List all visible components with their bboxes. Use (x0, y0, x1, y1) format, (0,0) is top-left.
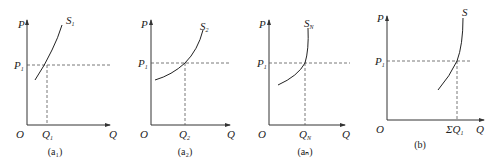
price-label: P1 (137, 57, 148, 70)
x-axis-label: Q (227, 128, 235, 140)
price-label: P1 (13, 59, 24, 72)
curve-label: S2 (200, 20, 209, 33)
origin-label: O (258, 128, 266, 140)
y-axis-label: P (376, 12, 384, 24)
panel-a1: P Q O P1 Q1 S1 (a₁) (13, 14, 117, 158)
supply-curve (438, 18, 463, 90)
panel-aN: P Q O P1 QN SN (aₙ) (256, 17, 350, 158)
x-axis-label: Q (476, 123, 484, 135)
panel-a2: P Q O P1 Q2 S2 (a₂) (137, 18, 235, 158)
price-label: P1 (374, 55, 385, 68)
y-axis-label: P (258, 18, 266, 30)
panel-caption: (a₁) (48, 146, 63, 158)
y-axis-label: P (140, 18, 148, 30)
curve-label: S1 (66, 14, 75, 27)
curve-label: SN (304, 17, 315, 30)
x-axis-label: Q (109, 128, 117, 140)
supply-curves-diagram: P Q O P1 Q1 S1 (a₁) P Q O P1 Q2 S2 (a₂) … (0, 0, 496, 163)
price-label: P1 (256, 57, 267, 70)
origin-label: O (16, 128, 24, 140)
panel-b: P Q O P1 ΣQ1 S (b) (374, 6, 484, 151)
supply-curve (155, 30, 203, 80)
x-axis-label: Q (342, 128, 350, 140)
quantity-label: QN (299, 128, 312, 141)
supply-curve (35, 25, 62, 80)
curve-label: S (462, 6, 468, 18)
supply-curve (278, 28, 308, 85)
panel-caption: (aₙ) (297, 146, 312, 158)
origin-label: O (140, 128, 148, 140)
panel-caption: (a₂) (178, 146, 193, 158)
quantity-label: Q1 (42, 128, 53, 141)
quantity-label: ΣQ1 (445, 123, 463, 136)
origin-label: O (376, 123, 384, 135)
y-axis-label: P (17, 18, 25, 30)
quantity-label: Q2 (179, 128, 190, 141)
panel-caption: (b) (414, 139, 426, 151)
